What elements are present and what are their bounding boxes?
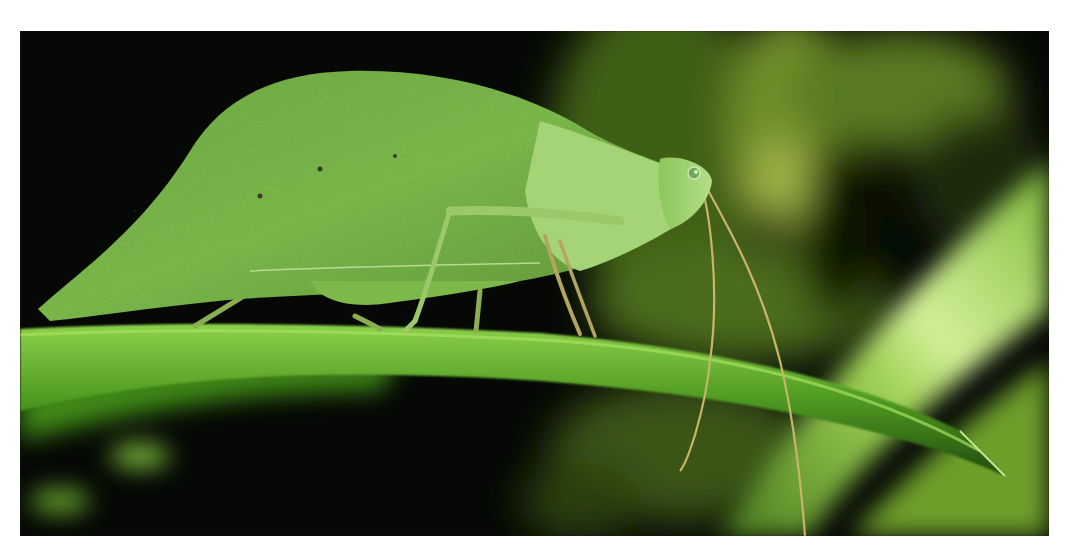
photo: Green leaf-mimic katydid perched on a gr… xyxy=(20,31,1049,536)
katydid-photo-illustration xyxy=(20,31,1049,536)
eye-icon xyxy=(688,167,700,179)
page: Green leaf-mimic katydid perched on a gr… xyxy=(0,0,1070,550)
